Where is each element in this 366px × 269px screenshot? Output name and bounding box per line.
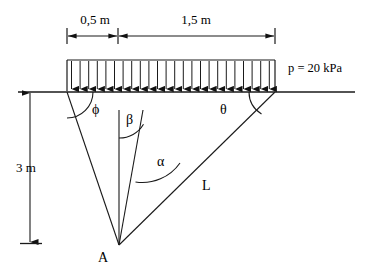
apex-point-label: A xyxy=(98,250,109,265)
depth-label: 3 m xyxy=(16,160,36,175)
dimension-label-left: 0,5 m xyxy=(80,12,110,27)
phi-angle-label: ϕ xyxy=(92,102,99,117)
depth-dimension-group: 3 m xyxy=(16,93,42,244)
soil-wedge-figure: 0,5 m 1,5 m xyxy=(0,0,366,269)
diagram-canvas: 0,5 m 1,5 m xyxy=(0,0,366,269)
alpha-angle-label: α xyxy=(157,154,165,169)
beta-angle-label: β xyxy=(126,112,133,127)
top-dimension-group: 0,5 m 1,5 m xyxy=(67,12,275,44)
dimension-label-right: 1,5 m xyxy=(181,12,211,27)
theta-angle-label: θ xyxy=(220,102,227,117)
load-arrows xyxy=(72,61,270,89)
load-magnitude-label: p = 20 kPa xyxy=(288,61,342,75)
slip-length-label: L xyxy=(202,178,211,193)
distributed-load-block: p = 20 kPa xyxy=(67,60,342,91)
